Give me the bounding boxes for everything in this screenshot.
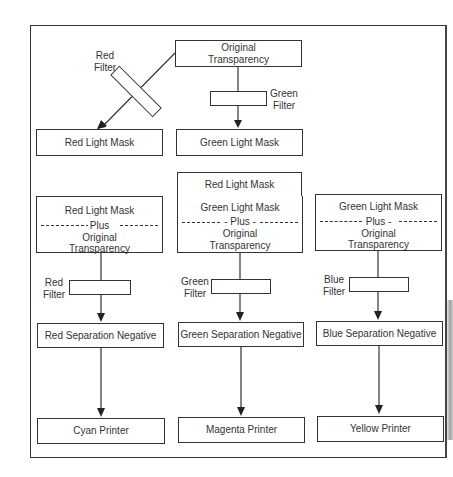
extra-red-light-mask-box: Red Light Mask <box>177 172 302 197</box>
printer-label: Magenta Printer <box>206 424 277 436</box>
original-line1: Original <box>178 228 302 240</box>
original-line2: Transparency <box>37 243 162 255</box>
plus-label: Plus - <box>364 216 394 227</box>
red-light-mask-label: Red Light Mask <box>65 137 134 149</box>
red-filter-col1-label: Red Filter <box>40 277 68 300</box>
red-separation-negative-box: Red Separation Negative <box>37 323 164 348</box>
original-transparency-box: Original Transparency <box>175 40 302 67</box>
green-filter-top-label: Green Filter <box>267 88 301 111</box>
original-line2: Transparency <box>178 240 302 252</box>
green-separation-negative-box: Green Separation Negative <box>178 322 304 347</box>
negative-label: Green Separation Negative <box>180 329 301 341</box>
blue-filter-col3 <box>349 277 409 292</box>
printer-label: Cyan Printer <box>73 425 129 437</box>
combo-mask-label: Red Light Mask <box>37 205 162 217</box>
plus-label: - Plus - <box>222 216 258 227</box>
magenta-printer-box: Magenta Printer <box>178 417 305 443</box>
printer-label: Yellow Printer <box>350 423 411 435</box>
blue-filter-col3-label: Blue Filter <box>319 274 349 297</box>
red-filter-top-label: Red Filter <box>89 50 121 73</box>
negative-label: Blue Separation Negative <box>323 328 436 340</box>
original-line1: Original <box>316 228 441 240</box>
combo-box-col2: Green Light Mask - Plus - Original Trans… <box>177 196 303 253</box>
plus-label: Plus <box>88 220 111 231</box>
original-label-line2: Transparency <box>208 54 269 66</box>
original-line2: Transparency <box>316 239 441 251</box>
green-light-mask-box: Green Light Mask <box>176 129 303 156</box>
combo-box-col1: Red Light Mask Plus Original Transparenc… <box>36 196 163 253</box>
combo-mask-label: Green Light Mask <box>178 202 302 214</box>
original-line1: Original <box>37 232 162 244</box>
red-light-mask-box: Red Light Mask <box>36 129 163 156</box>
original-label-line1: Original <box>208 42 269 54</box>
red-filter-col1 <box>69 280 131 295</box>
blue-separation-negative-box: Blue Separation Negative <box>316 321 443 346</box>
cyan-printer-box: Cyan Printer <box>37 418 165 444</box>
extra-red-light-mask-label: Red Light Mask <box>205 179 274 190</box>
yellow-printer-box: Yellow Printer <box>317 416 444 442</box>
combo-box-col3: Green Light Mask Plus - Original Transpa… <box>315 194 442 251</box>
green-light-mask-label: Green Light Mask <box>200 137 279 149</box>
negative-label: Red Separation Negative <box>45 330 157 342</box>
green-filter-col2-label: Green Filter <box>178 276 212 299</box>
combo-mask-label: Green Light Mask <box>316 201 441 213</box>
green-filter-col2 <box>211 279 271 294</box>
green-filter-top <box>210 91 267 106</box>
